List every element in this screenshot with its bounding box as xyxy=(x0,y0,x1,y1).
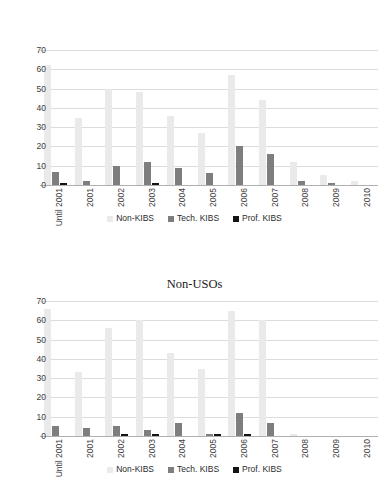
y-tick-label-30: 30 xyxy=(26,374,46,382)
y-tick-label-70: 70 xyxy=(26,46,46,54)
plot-wrap-top: 706050403020100 Until 200120012002200320… xyxy=(0,40,389,190)
bar xyxy=(75,372,82,436)
bar-columns-top xyxy=(40,50,378,185)
bar-group xyxy=(163,50,194,185)
bar xyxy=(52,426,59,436)
plot-wrap-bottom: 706050403020100 Until 200120012002200320… xyxy=(0,291,389,441)
x-tick-label: 2004 xyxy=(178,188,187,207)
x-tick-label: 2007 xyxy=(271,439,280,458)
chart-title-bottom: Non-USOs xyxy=(0,277,389,291)
y-tick-label-60: 60 xyxy=(26,316,46,324)
x-tick-label: 2001 xyxy=(86,188,95,207)
y-tick-label-40: 40 xyxy=(26,355,46,363)
legend-swatch-icon xyxy=(168,467,174,473)
y-tick-label-20: 20 xyxy=(26,393,46,401)
bar xyxy=(198,133,205,185)
y-tick-label-10: 10 xyxy=(26,162,46,170)
bar-group xyxy=(71,301,102,436)
legend-swatch-icon xyxy=(107,467,113,473)
x-tick-label: 2007 xyxy=(271,188,280,207)
bar xyxy=(236,413,243,436)
legend-label: Non-KIBS xyxy=(116,214,154,223)
x-tick-label: 2002 xyxy=(117,439,126,458)
bar xyxy=(144,430,151,436)
bar xyxy=(52,172,59,186)
x-tick-label: 2002 xyxy=(117,188,126,207)
bar-group xyxy=(163,301,194,436)
legend-item-prof[interactable]: Prof. KIBS xyxy=(233,465,282,474)
bar xyxy=(144,162,151,185)
plot-area-bottom xyxy=(40,301,378,436)
bar-group xyxy=(224,301,255,436)
bar xyxy=(152,434,159,436)
bar xyxy=(167,116,174,185)
legend-item-prof[interactable]: Prof. KIBS xyxy=(233,214,282,223)
bar-group xyxy=(255,301,286,436)
y-tick-label-20: 20 xyxy=(26,142,46,150)
bar-group xyxy=(317,50,348,185)
bar-group xyxy=(101,301,132,436)
chart-block-non-usos: Non-USOs 706050403020100 Until 200120012… xyxy=(0,251,389,502)
legend-swatch-icon xyxy=(233,467,239,473)
bar-group xyxy=(255,50,286,185)
bar xyxy=(105,328,112,436)
top-spacer xyxy=(0,0,389,20)
x-tick-label: 2008 xyxy=(301,188,310,207)
y-tick-label-50: 50 xyxy=(26,85,46,93)
x-tick-label: 2003 xyxy=(148,188,157,207)
bar xyxy=(290,162,297,185)
bar-group xyxy=(132,50,163,185)
bar xyxy=(113,166,120,185)
y-tick-label-50: 50 xyxy=(26,336,46,344)
bar-group xyxy=(286,301,317,436)
y-tick-label-30: 30 xyxy=(26,123,46,131)
bar xyxy=(267,154,274,185)
legend-item-nonkibs[interactable]: Non-KIBS xyxy=(107,214,154,223)
bar xyxy=(328,183,335,185)
x-tick-label: 2005 xyxy=(209,439,218,458)
bar xyxy=(206,173,213,185)
x-tick-label: 2010 xyxy=(363,188,372,207)
bar xyxy=(136,92,143,185)
bar-columns-bottom xyxy=(40,301,378,436)
y-tick-label-60: 60 xyxy=(26,65,46,73)
bottom-spacer xyxy=(0,251,389,271)
bar xyxy=(121,434,128,436)
bar xyxy=(214,434,221,436)
y-tick-label-70: 70 xyxy=(26,297,46,305)
x-tick-label: 2010 xyxy=(363,439,372,458)
bar xyxy=(198,369,205,437)
legend-swatch-icon xyxy=(168,216,174,222)
bar xyxy=(175,168,182,185)
bar-group xyxy=(194,301,225,436)
bar xyxy=(298,181,305,185)
bar-group xyxy=(132,301,163,436)
legend-item-nonkibs[interactable]: Non-KIBS xyxy=(107,465,154,474)
y-tick-label-10: 10 xyxy=(26,413,46,421)
x-tick-label: 2009 xyxy=(332,188,341,207)
x-tick-label: 2005 xyxy=(209,188,218,207)
legend-swatch-icon xyxy=(107,216,113,222)
legend-label: Prof. KIBS xyxy=(242,465,282,474)
bar xyxy=(167,353,174,436)
legend-item-tech[interactable]: Tech. KIBS xyxy=(168,465,219,474)
bar xyxy=(244,434,251,436)
bar xyxy=(351,181,358,185)
bar-group xyxy=(224,50,255,185)
bar-group xyxy=(71,50,102,185)
bar xyxy=(228,75,235,185)
bar xyxy=(320,175,327,185)
legend-bottom: Non-KIBSTech. KIBSProf. KIBS xyxy=(0,465,389,474)
bar-group xyxy=(286,50,317,185)
bar xyxy=(152,183,159,185)
bar xyxy=(175,423,182,437)
bar xyxy=(136,320,143,436)
bar-group xyxy=(194,50,225,185)
bar xyxy=(206,434,213,436)
bar xyxy=(290,434,297,436)
legend-item-tech[interactable]: Tech. KIBS xyxy=(168,214,219,223)
bar xyxy=(105,89,112,185)
legend-label: Tech. KIBS xyxy=(177,465,219,474)
legend-label: Tech. KIBS xyxy=(177,214,219,223)
bar-group xyxy=(101,50,132,185)
